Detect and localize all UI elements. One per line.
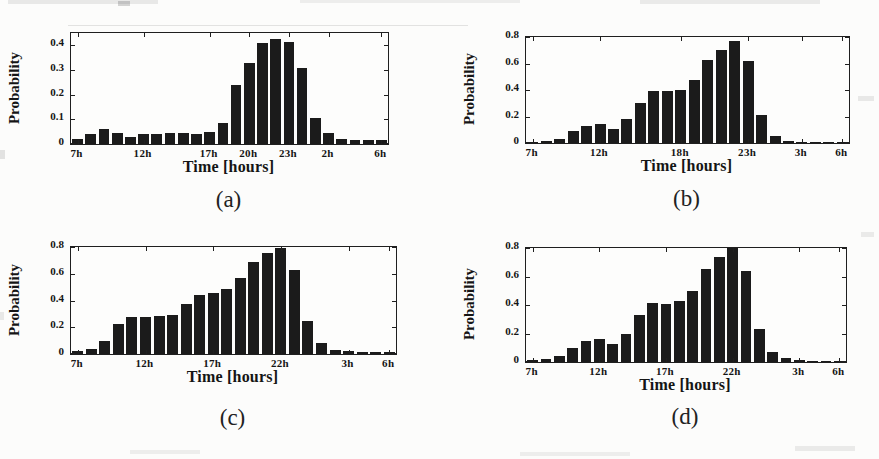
x-tick-mark xyxy=(381,33,382,37)
y-tick-mark xyxy=(71,327,75,328)
plot-area xyxy=(70,32,389,145)
plot-area xyxy=(525,247,847,363)
bar-20h xyxy=(248,262,259,354)
bar-9h xyxy=(554,356,565,362)
y-tick-mark xyxy=(71,247,75,248)
x-tick-label: 7h xyxy=(508,365,556,377)
bar-2h xyxy=(781,358,792,362)
y-tick-label: 0.6 xyxy=(22,265,64,277)
x-tick-mark xyxy=(210,33,211,37)
bar-20h xyxy=(702,60,713,144)
y-tick-mark xyxy=(392,301,396,302)
y-tick-mark xyxy=(842,305,846,306)
bar-13h xyxy=(608,129,619,143)
bar-11h xyxy=(581,341,592,362)
y-tick-mark xyxy=(392,274,396,275)
bar-21h xyxy=(714,257,725,362)
bar-11h xyxy=(581,126,592,143)
y-tick-mark xyxy=(845,117,849,118)
bar-22h xyxy=(729,41,740,143)
x-tick-mark xyxy=(329,140,330,144)
x-tick-mark xyxy=(213,247,214,251)
y-tick-label: 0 xyxy=(477,134,519,146)
bar-5h xyxy=(363,140,374,144)
y-tick-mark xyxy=(845,64,849,65)
y-tick-label: 0.1 xyxy=(22,110,64,122)
x-tick-mark xyxy=(748,37,749,41)
x-tick-label: 22h xyxy=(708,365,756,377)
x-tick-mark xyxy=(839,358,840,362)
x-tick-label: 6h xyxy=(817,146,865,158)
chart-b: Probability Time [hours] (b) 7h12h18h23h… xyxy=(440,0,879,228)
bar-13h xyxy=(154,316,165,354)
x-tick-mark xyxy=(289,33,290,37)
bar-16h xyxy=(647,303,658,362)
bar-17h xyxy=(208,293,219,354)
x-tick-mark xyxy=(78,247,79,251)
bar-11h xyxy=(125,137,136,144)
bar-4h xyxy=(350,140,361,144)
x-tick-mark xyxy=(144,140,145,144)
x-tick-mark xyxy=(681,139,682,143)
y-tick-mark xyxy=(392,327,396,328)
x-tick-mark xyxy=(802,139,803,143)
x-axis-label: Time [hours] xyxy=(525,376,845,394)
y-tick-label: 0.4 xyxy=(477,81,519,93)
bar-13h xyxy=(151,134,162,144)
y-tick-label: 0 xyxy=(477,353,519,365)
bar-14h xyxy=(165,133,176,144)
bar-22h xyxy=(270,39,281,144)
x-tick-mark xyxy=(802,37,803,41)
x-tick-mark xyxy=(842,139,843,143)
y-tick-label: 0.4 xyxy=(477,296,519,308)
bar-15h xyxy=(634,315,645,362)
x-tick-label: 7h xyxy=(53,357,101,369)
bar-16h xyxy=(194,295,205,355)
x-tick-label: 7h xyxy=(508,146,556,158)
bar-21h xyxy=(262,253,273,354)
bar-10h xyxy=(568,131,579,143)
bar-5h xyxy=(370,352,381,354)
x-tick-mark xyxy=(389,247,390,251)
bar-0h xyxy=(754,329,765,362)
x-tick-label: 18h xyxy=(656,146,704,158)
y-tick-mark xyxy=(384,143,388,144)
y-tick-mark xyxy=(526,277,530,278)
x-axis-label: Time [hours] xyxy=(70,368,395,386)
y-tick-mark xyxy=(384,119,388,120)
y-tick-mark xyxy=(526,248,530,249)
y-tick-mark xyxy=(384,45,388,46)
y-tick-mark xyxy=(526,37,530,38)
bar-16h xyxy=(191,134,202,144)
bar-23h xyxy=(284,42,295,144)
x-tick-mark xyxy=(599,358,600,362)
bar-4h xyxy=(810,142,821,144)
y-tick-label: 0.4 xyxy=(22,36,64,48)
y-tick-label: 0.4 xyxy=(22,292,64,304)
x-tick-mark xyxy=(666,358,667,362)
x-tick-mark xyxy=(681,37,682,41)
bar-8h xyxy=(541,141,552,143)
x-tick-label: 12h xyxy=(575,146,623,158)
bar-10h xyxy=(567,348,578,362)
x-tick-label: 7h xyxy=(53,147,101,159)
x-tick-mark xyxy=(249,140,250,144)
y-axis-label: Probability xyxy=(461,268,478,340)
bar-23h xyxy=(743,61,754,143)
bar-23h xyxy=(289,270,300,354)
figure-caption-c: (c) xyxy=(70,405,395,431)
x-tick-mark xyxy=(733,358,734,362)
x-tick-mark xyxy=(144,33,145,37)
bar-13h xyxy=(607,344,618,363)
x-tick-mark xyxy=(349,350,350,354)
bar-15h xyxy=(635,103,646,143)
y-tick-mark xyxy=(526,64,530,65)
bar-15h xyxy=(178,133,189,144)
x-tick-label: 17h xyxy=(641,365,689,377)
plot-area xyxy=(525,36,850,144)
y-tick-label: 0.8 xyxy=(477,239,519,251)
bar-4h xyxy=(807,361,818,363)
y-tick-mark xyxy=(71,301,75,302)
x-tick-label: 12h xyxy=(121,357,169,369)
bar-17h xyxy=(662,91,673,143)
